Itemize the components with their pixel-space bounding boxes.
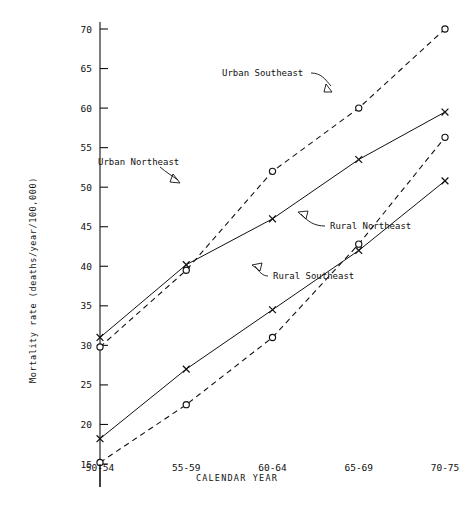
leader-rural-northeast bbox=[301, 214, 325, 226]
y-tick-label-55: 55 bbox=[81, 142, 92, 153]
leader-urban-southeast bbox=[311, 73, 331, 86]
annotation-urban-northeast: Urban Northeast bbox=[98, 157, 179, 167]
x-axis-title: CALENDAR YEAR bbox=[196, 473, 278, 483]
x-tick-label-55-59: 55-59 bbox=[172, 462, 201, 473]
series-markers-group bbox=[97, 26, 449, 466]
marker-urban-southeast-60-64 bbox=[269, 168, 275, 174]
x-tick-label-65-69: 65-69 bbox=[344, 462, 373, 473]
leader-urban-northeast bbox=[160, 167, 178, 180]
x-axis-tick-labels: 50-5455-5960-6465-6970-75 bbox=[86, 462, 460, 473]
marker-rural-northeast-65-69 bbox=[355, 247, 362, 254]
marker-rural-northeast-70-75 bbox=[442, 177, 449, 184]
y-tick-label-20: 20 bbox=[81, 419, 93, 430]
series-line-rural-southeast bbox=[100, 137, 445, 462]
annotation-urban-southeast: Urban Southeast bbox=[222, 68, 303, 78]
y-tick-label-65: 65 bbox=[81, 63, 92, 74]
marker-rural-southeast-55-59 bbox=[183, 402, 189, 408]
y-tick-label-45: 45 bbox=[81, 221, 92, 232]
y-tick-label-50: 50 bbox=[81, 182, 93, 193]
marker-urban-northeast-60-64 bbox=[269, 215, 276, 222]
marker-rural-southeast-65-69 bbox=[356, 241, 362, 247]
y-tick-label-35: 35 bbox=[81, 300, 92, 311]
marker-rural-northeast-60-64 bbox=[269, 306, 276, 313]
y-axis-title: Mortality rate (deaths/year/100,000) bbox=[28, 177, 38, 383]
y-tick-label-30: 30 bbox=[81, 340, 93, 351]
marker-urban-southeast-65-69 bbox=[356, 105, 362, 111]
marker-urban-northeast-70-75 bbox=[442, 109, 449, 116]
marker-rural-southeast-70-75 bbox=[442, 134, 448, 140]
marker-urban-southeast-50-54 bbox=[97, 344, 103, 350]
y-tick-label-70: 70 bbox=[81, 24, 93, 35]
mortality-rate-line-chart: 152025303540455055606570 50-5455-5960-64… bbox=[0, 0, 474, 509]
annotation-leaders bbox=[160, 73, 332, 276]
y-axis-ticks bbox=[100, 29, 108, 464]
leader-rural-southeast bbox=[255, 266, 268, 276]
x-tick-label-60-64: 60-64 bbox=[258, 462, 287, 473]
marker-urban-southeast-70-75 bbox=[442, 26, 448, 32]
marker-rural-southeast-60-64 bbox=[269, 334, 275, 340]
y-tick-label-25: 25 bbox=[81, 379, 92, 390]
chart-svg: 152025303540455055606570 50-5455-5960-64… bbox=[0, 0, 474, 509]
y-tick-label-40: 40 bbox=[81, 261, 93, 272]
x-tick-label-70-75: 70-75 bbox=[431, 462, 460, 473]
y-axis-tick-labels: 152025303540455055606570 bbox=[81, 24, 93, 470]
marker-rural-northeast-55-59 bbox=[183, 366, 190, 373]
annotation-rural-southeast: Rural Southeast bbox=[273, 271, 354, 281]
series-lines-group bbox=[100, 29, 445, 462]
annotation-rural-northeast: Rural Northeast bbox=[330, 221, 411, 231]
arrowhead-rural-northeast bbox=[298, 211, 308, 219]
marker-urban-northeast-65-69 bbox=[355, 156, 362, 163]
arrowhead-rural-southeast bbox=[252, 263, 262, 271]
marker-urban-southeast-55-59 bbox=[183, 267, 189, 273]
y-tick-label-60: 60 bbox=[81, 103, 93, 114]
